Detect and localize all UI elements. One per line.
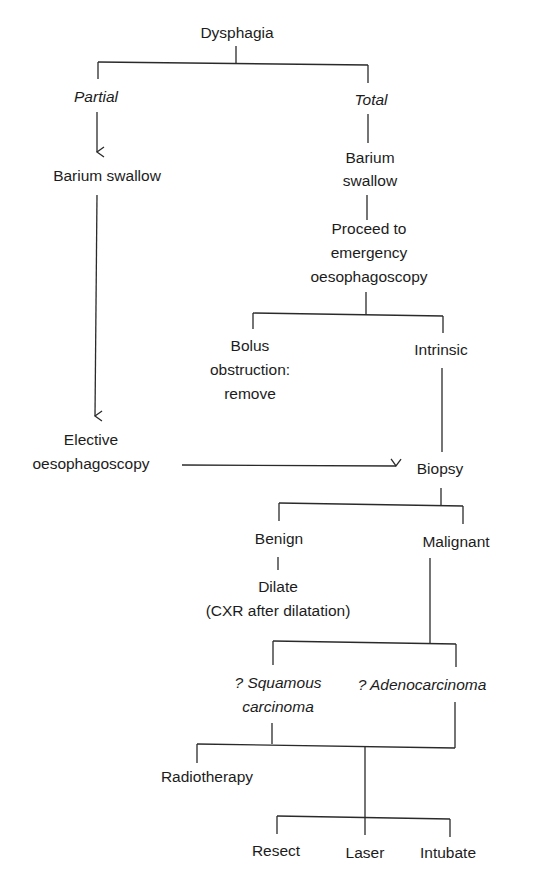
edge-biopsy-bar bbox=[279, 503, 463, 506]
dysphagia-flowchart: Dysphagia Partial Total Barium swallow B… bbox=[0, 0, 551, 874]
node-bolus-line-3: remove bbox=[210, 382, 290, 406]
edge-emergency-bar bbox=[253, 313, 443, 316]
node-dilate-line-2: (CXR after dilatation) bbox=[206, 599, 351, 623]
node-bolus-line-1: Bolus bbox=[210, 334, 290, 358]
node-barium-right-line-2: swallow bbox=[343, 169, 397, 192]
node-emergency-line-2: emergency bbox=[310, 241, 427, 265]
node-total-label: Total bbox=[354, 88, 387, 112]
node-adenocarcinoma: ? Adenocarcinoma bbox=[358, 673, 487, 697]
node-dysphagia: Dysphagia bbox=[200, 21, 273, 45]
node-barium-left-label: Barium swallow bbox=[53, 164, 161, 188]
node-squamous-line-1: ? Squamous bbox=[234, 671, 321, 695]
node-elective-line-2: oesophagoscopy bbox=[32, 452, 149, 476]
node-emergency-line-1: Proceed to bbox=[310, 217, 427, 241]
node-intrinsic-label: Intrinsic bbox=[414, 338, 467, 362]
node-radiotherapy-label: Radiotherapy bbox=[161, 765, 253, 789]
node-dysphagia-label: Dysphagia bbox=[200, 21, 273, 45]
node-benign: Benign bbox=[255, 527, 303, 551]
node-total: Total bbox=[354, 88, 387, 112]
node-squamous-carcinoma: ? Squamous carcinoma bbox=[234, 671, 321, 719]
node-emergency-line-3: oesophagoscopy bbox=[310, 265, 427, 289]
node-malignant-label: Malignant bbox=[422, 530, 489, 554]
node-resect: Resect bbox=[252, 839, 300, 863]
node-bolus-obstruction: Bolus obstruction: remove bbox=[210, 334, 290, 406]
node-partial: Partial bbox=[74, 85, 118, 109]
node-resect-label: Resect bbox=[252, 839, 300, 863]
node-benign-label: Benign bbox=[255, 527, 303, 551]
node-biopsy: Biopsy bbox=[417, 457, 464, 481]
arrow-barium-to-elective bbox=[95, 195, 97, 416]
node-laser-label: Laser bbox=[346, 841, 385, 865]
node-bolus-line-2: obstruction: bbox=[210, 358, 290, 382]
node-barium-swallow-total: Barium swallow bbox=[343, 146, 397, 192]
node-malignant: Malignant bbox=[422, 530, 489, 554]
node-emergency-oesophagoscopy: Proceed to emergency oesophagoscopy bbox=[310, 217, 427, 289]
edge-bottom-bar bbox=[277, 816, 450, 819]
node-intubate-label: Intubate bbox=[420, 841, 476, 865]
edge-dysphagia-bar bbox=[98, 62, 368, 65]
node-biopsy-label: Biopsy bbox=[417, 457, 464, 481]
node-squamous-line-2: carcinoma bbox=[234, 695, 321, 719]
node-barium-swallow-partial: Barium swallow bbox=[53, 164, 161, 188]
node-elective-oesophagoscopy: Elective oesophagoscopy bbox=[32, 428, 149, 476]
arrow-elective-to-biopsy bbox=[182, 465, 396, 466]
edge-treatment-bar bbox=[197, 744, 455, 748]
node-intrinsic: Intrinsic bbox=[414, 338, 467, 362]
node-adeno-label: ? Adenocarcinoma bbox=[358, 673, 487, 697]
node-elective-line-1: Elective bbox=[32, 428, 149, 452]
node-dilate-line-1: Dilate bbox=[206, 575, 351, 599]
node-partial-label: Partial bbox=[74, 85, 118, 109]
node-intubate: Intubate bbox=[420, 841, 476, 865]
edge-malignant-bar bbox=[273, 641, 456, 644]
node-laser: Laser bbox=[346, 841, 385, 865]
node-radiotherapy: Radiotherapy bbox=[161, 765, 253, 789]
node-dilate: Dilate (CXR after dilatation) bbox=[206, 575, 351, 623]
node-barium-right-line-1: Barium bbox=[343, 146, 397, 169]
